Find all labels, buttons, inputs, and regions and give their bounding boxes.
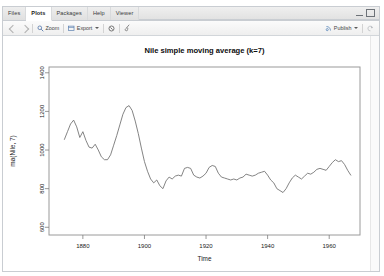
plots-toolbar: Zoom Export (3, 21, 379, 36)
minimize-icon[interactable] (356, 10, 363, 16)
y-tick-label-3: 1200 (39, 104, 45, 118)
window-controls (352, 7, 379, 20)
tab-packages[interactable]: Packages (52, 7, 88, 20)
forward-button[interactable] (18, 22, 30, 34)
x-tick-label-1: 1900 (138, 243, 152, 249)
x-axis-label: Time (198, 255, 212, 262)
data-series-ma-nile-7 (64, 106, 350, 193)
toolbar-divider (362, 24, 363, 33)
y-axis-label: ma(Nile, 7) (9, 135, 17, 166)
publish-icon (325, 25, 332, 32)
y-tick-label-2: 1000 (39, 143, 45, 157)
toolbar-divider (63, 24, 64, 33)
pane-frame: Files Plots Packages Help Viewer (2, 6, 380, 272)
plot-canvas-area[interactable]: Nile simple moving average (k=7)60080010… (3, 36, 379, 271)
clear-all-plots-button[interactable] (122, 22, 133, 34)
magnifier-icon (37, 25, 44, 32)
tab-help[interactable]: Help (88, 7, 111, 20)
pane-tabstrip: Files Plots Packages Help Viewer (3, 7, 379, 21)
y-tick-label-1: 800 (39, 183, 45, 194)
tab-plots[interactable]: Plots (26, 7, 51, 21)
forward-arrow-icon (20, 24, 28, 32)
back-arrow-icon (8, 24, 16, 32)
toolbar-divider (103, 24, 104, 33)
tab-files[interactable]: Files (3, 7, 26, 20)
broom-icon (124, 24, 131, 32)
export-label: Export (77, 25, 93, 31)
export-icon (68, 25, 75, 32)
refresh-icon (367, 25, 374, 32)
maximize-icon[interactable] (366, 9, 375, 17)
chevron-down-icon (95, 27, 99, 29)
tab-viewer[interactable]: Viewer (111, 7, 140, 20)
nile-moving-average-plot: Nile simple moving average (k=7)60080010… (3, 36, 372, 272)
remove-plot-button[interactable] (106, 22, 117, 34)
y-tick-label-0: 600 (39, 222, 45, 233)
plot-frame (49, 67, 360, 235)
toolbar-divider (119, 24, 120, 33)
x-tick-label-4: 1960 (323, 243, 337, 249)
tabstrip-filler (139, 7, 352, 20)
vertical-scrollbar[interactable] (370, 36, 379, 271)
remove-plot-icon (108, 25, 115, 32)
refresh-button[interactable] (365, 22, 376, 34)
x-tick-label-2: 1920 (199, 243, 213, 249)
back-button[interactable] (6, 22, 18, 34)
publish-label: Publish (334, 25, 352, 31)
zoom-button[interactable]: Zoom (35, 22, 61, 34)
toolbar-divider (32, 24, 33, 33)
chevron-down-icon (354, 27, 358, 29)
x-tick-label-0: 1880 (76, 243, 90, 249)
y-tick-label-4: 1400 (39, 65, 45, 79)
rstudio-plots-pane: Files Plots Packages Help Viewer (0, 0, 384, 276)
plot-title: Nile simple moving average (k=7) (144, 46, 265, 55)
zoom-label: Zoom (46, 25, 60, 31)
x-tick-label-3: 1940 (261, 243, 275, 249)
publish-button[interactable]: Publish (323, 22, 360, 34)
export-button[interactable]: Export (66, 22, 101, 34)
